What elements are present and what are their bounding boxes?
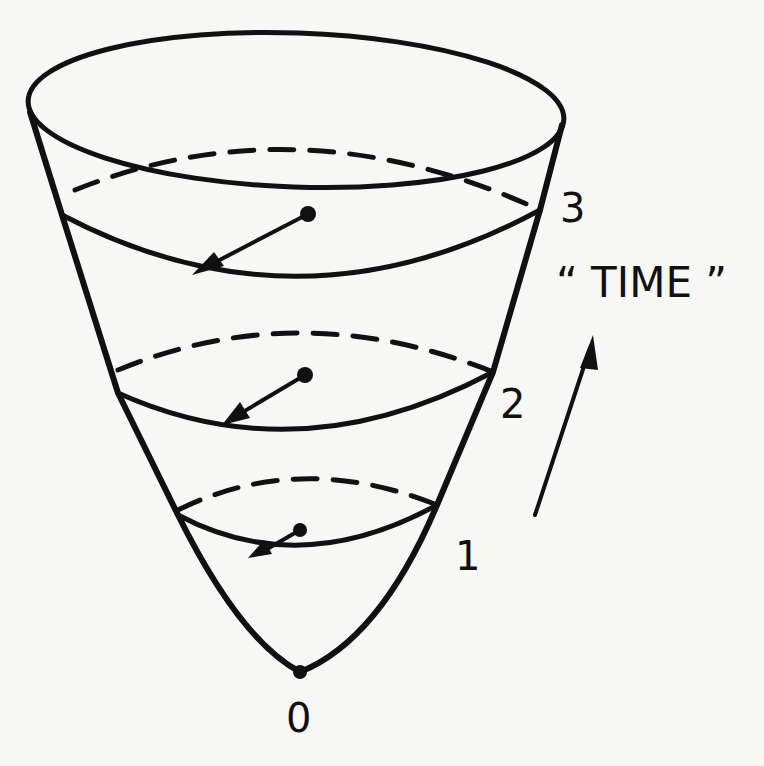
slice-2-back-dashed (118, 333, 493, 372)
slice-label-0: 0 (286, 695, 311, 741)
slice-label-1: 1 (455, 533, 480, 579)
slice-3-front (62, 210, 540, 276)
paraboloid-diagram: 3 2 1 0 “ TIME ” (0, 0, 764, 766)
time-label: “ TIME ” (556, 258, 727, 307)
top-rim-ellipse (25, 24, 566, 197)
slice-3-back-dashed (75, 150, 540, 211)
slice-3-arrow-icon (192, 206, 316, 275)
arrow-up-icon (535, 335, 598, 515)
slice-1-back-dashed (178, 479, 437, 510)
slice-2-arrow-icon (222, 367, 313, 425)
vertex-point-0 (293, 665, 307, 679)
slice-label-2: 2 (500, 381, 525, 427)
slice-label-3: 3 (560, 185, 585, 231)
slice-1-front (178, 505, 437, 545)
bowl-left-side (30, 112, 300, 672)
diagram-canvas: 3 2 1 0 “ TIME ” (0, 0, 764, 766)
